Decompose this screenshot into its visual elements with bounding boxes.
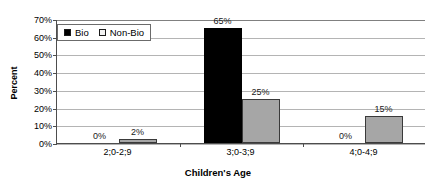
x-axis-category-label: 4;0-4;9	[302, 148, 425, 157]
x-axis-tick-mark	[180, 143, 181, 147]
gridline	[57, 144, 425, 145]
bar-group: 0%15%	[303, 20, 426, 143]
legend-label-bio: Bio	[75, 28, 89, 38]
bar-bio[interactable]: 65%	[204, 28, 242, 143]
bar-value-label: 2%	[131, 128, 144, 137]
y-axis-tick-label: 10%	[16, 122, 52, 131]
bar-chart: Percent 0%10%20%30%40%50%60%70% 0%2%65%2…	[0, 0, 436, 190]
y-axis-tick-labels: 0%10%20%30%40%50%60%70%	[16, 16, 52, 144]
bar-non-bio[interactable]: 15%	[365, 116, 403, 143]
y-axis-tick-label: 50%	[16, 51, 52, 60]
x-axis-title: Children's Age	[0, 167, 436, 178]
bar-value-label: 0%	[93, 132, 106, 141]
legend-swatch-bio-icon	[64, 29, 71, 36]
bar-value-label: 0%	[339, 132, 352, 141]
bar-value-label: 25%	[251, 88, 269, 97]
y-axis-tick-label: 20%	[16, 105, 52, 114]
bar-value-label: 65%	[213, 17, 231, 26]
y-axis-tick-label: 30%	[16, 87, 52, 96]
bar-non-bio[interactable]: 25%	[242, 99, 280, 143]
legend-entry-non-bio: Non-Bio	[99, 28, 144, 38]
y-axis-tick-mark	[53, 144, 57, 145]
bar-pair: 65%25%	[180, 20, 303, 143]
bar-group: 65%25%	[180, 20, 303, 143]
bar-value-label: 15%	[374, 105, 392, 114]
y-axis-tick-label: 70%	[16, 16, 52, 25]
y-axis-tick-label: 0%	[16, 140, 52, 149]
chart-legend: Bio Non-Bio	[57, 24, 151, 41]
x-axis-category-label: 2;0-2;9	[56, 148, 179, 157]
legend-label-non-bio: Non-Bio	[110, 28, 144, 38]
bar-non-bio[interactable]: 2%	[119, 139, 157, 143]
legend-swatch-non-bio-icon	[99, 29, 106, 36]
y-axis-tick-label: 60%	[16, 34, 52, 43]
x-axis-category-label: 3;0-3;9	[179, 148, 302, 157]
x-axis-tick-mark	[303, 143, 304, 147]
bar-pair: 0%15%	[303, 20, 426, 143]
legend-entry-bio: Bio	[64, 28, 89, 38]
y-axis-tick-label: 40%	[16, 69, 52, 78]
